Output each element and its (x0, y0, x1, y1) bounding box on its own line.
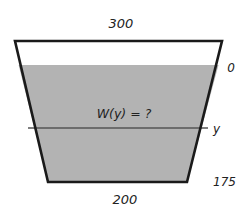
bottom-width-label: 200 (113, 192, 138, 207)
bottom-depth-label: 175 (213, 175, 236, 189)
width-question-label: W(y) = ? (97, 106, 152, 121)
slice-depth-label: y (212, 122, 221, 136)
top-width-label: 300 (109, 16, 134, 31)
tank-diagram: 300 0 W(y) = ? y 175 200 (0, 0, 249, 213)
water-region (19, 65, 219, 182)
water-surface-depth-label: 0 (227, 61, 235, 75)
